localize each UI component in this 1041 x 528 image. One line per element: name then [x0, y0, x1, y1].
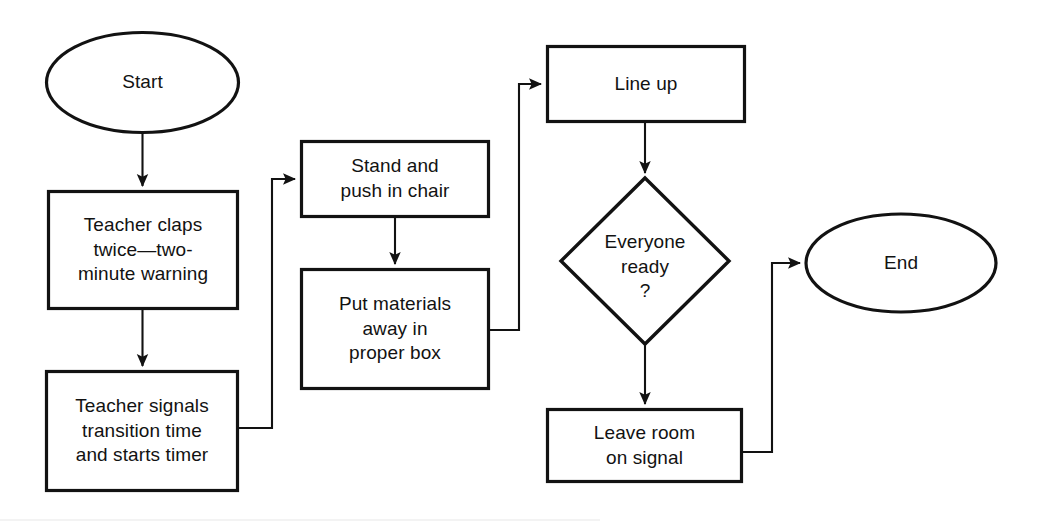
edge-signals-to-stand [239, 179, 295, 428]
node-line-up-shape[interactable] [548, 47, 745, 122]
node-stand-push-chair-shape[interactable] [302, 142, 489, 217]
edge-materials-to-lineup [490, 84, 541, 330]
flowchart-shapes-and-connectors [0, 0, 1041, 528]
node-put-materials-away-shape[interactable] [302, 270, 489, 389]
node-teacher-claps-shape[interactable] [49, 192, 238, 309]
edge-leave-to-end [742, 263, 800, 452]
node-leave-room-shape[interactable] [548, 410, 742, 482]
flowchart-canvas: Start Teacher claps twice—two- minute wa… [0, 0, 1041, 528]
scan-edge-artifact [0, 519, 600, 521]
node-everyone-ready-shape[interactable] [561, 178, 729, 344]
node-start-shape[interactable] [47, 33, 239, 133]
node-teacher-signals-shape[interactable] [47, 372, 238, 491]
node-end-shape[interactable] [806, 214, 996, 312]
